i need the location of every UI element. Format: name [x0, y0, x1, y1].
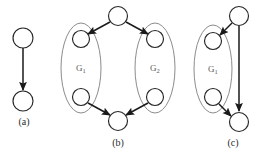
figure-canvas: (a)G1G2(b)G1(c): [0, 0, 276, 158]
panel-c-g1-exit-node[interactable]: [205, 89, 222, 106]
panel-c-edge-source-to-g1: [220, 23, 232, 35]
panel-c-g1-entry-node[interactable]: [205, 33, 222, 50]
panel-b: G1G2(b): [61, 7, 175, 150]
panel-b-g1-entry-node[interactable]: [73, 31, 90, 48]
panel-b-edge-source-to-g2: [126, 22, 148, 34]
panel-b-g2-exit-node[interactable]: [147, 89, 164, 106]
panel-b-edge-g1-to-sink: [88, 103, 110, 115]
panel-c-edge-g1-to-sink: [219, 104, 231, 116]
panel-c-caption: (c): [227, 137, 238, 149]
panels-layer: (a)G1G2(b)G1(c): [13, 7, 249, 150]
panel-c-source-node[interactable]: [230, 7, 249, 26]
panel-b-g2-label: G2: [150, 63, 160, 74]
panel-a: (a): [13, 28, 33, 128]
panel-a-top-node[interactable]: [13, 28, 33, 48]
panel-b-g2-label-subscript: 2: [157, 67, 160, 74]
panel-b-source-node[interactable]: [109, 7, 128, 26]
panel-b-sink-node[interactable]: [109, 112, 128, 131]
panel-c-sink-node[interactable]: [230, 113, 249, 132]
panel-a-bottom-node[interactable]: [13, 91, 33, 111]
panel-c-g1-label-subscript: 1: [215, 68, 218, 75]
panel-b-g1-exit-node[interactable]: [73, 89, 90, 106]
panel-b-edge-source-to-g1: [88, 22, 110, 34]
panel-c: G1(c): [194, 7, 249, 150]
panel-b-g2-entry-node[interactable]: [147, 31, 164, 48]
panel-b-g1-label: G1: [76, 63, 86, 74]
panel-b-caption: (b): [112, 137, 124, 149]
panel-b-edge-g2-to-sink: [126, 103, 148, 115]
panel-a-caption: (a): [18, 116, 29, 128]
panel-b-g1-label-subscript: 1: [83, 67, 86, 74]
graph-diagram: (a)G1G2(b)G1(c): [0, 0, 276, 158]
panel-c-g1-label: G1: [208, 64, 218, 75]
